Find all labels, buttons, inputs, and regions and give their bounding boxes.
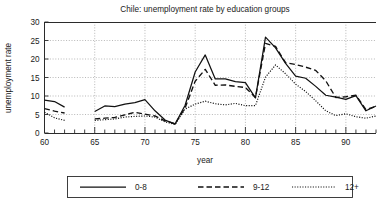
chart-figure: Chile: unemployment rate by education gr… <box>0 0 388 201</box>
data-series-group <box>45 37 377 124</box>
chart-title: Chile: unemployment rate by education gr… <box>120 5 289 14</box>
y-tick-label: 30 <box>30 18 40 27</box>
legend-label-9-12: 9-12 <box>253 183 270 192</box>
y-tick-label: 0 <box>35 129 40 138</box>
y-tick-label: 5 <box>35 111 40 120</box>
chart-legend: 0-89-1212+ <box>68 177 360 198</box>
series-line-9-12 <box>45 109 65 113</box>
series-line-0-8 <box>95 37 376 124</box>
x-tick-label: 60 <box>40 138 50 147</box>
x-tick-label: 90 <box>341 138 351 147</box>
x-axis-title: year <box>197 156 213 165</box>
legend-label-0-8: 0-8 <box>135 183 147 192</box>
x-tick-label: 70 <box>140 138 150 147</box>
x-tick-label: 65 <box>90 138 100 147</box>
series-line-9-12 <box>95 43 376 123</box>
y-tick-label: 25 <box>30 37 40 46</box>
y-tick-label: 15 <box>30 74 40 83</box>
y-tick-label: 10 <box>30 92 40 101</box>
unemployment-line-chart: Chile: unemployment rate by education gr… <box>0 0 388 201</box>
x-tick-label: 80 <box>241 138 251 147</box>
series-line-12plus <box>95 65 376 125</box>
x-axis-ticks: 60657075808590 <box>40 127 376 147</box>
y-axis-ticks: 051015202530 <box>30 18 48 138</box>
x-tick-label: 75 <box>191 138 201 147</box>
legend-label-12plus: 12+ <box>345 183 359 192</box>
x-tick-label: 85 <box>291 138 301 147</box>
y-tick-label: 20 <box>30 55 40 64</box>
y-axis-title: unemployment rate <box>4 43 13 114</box>
series-line-0-8 <box>45 100 65 107</box>
series-line-12plus <box>45 112 65 120</box>
